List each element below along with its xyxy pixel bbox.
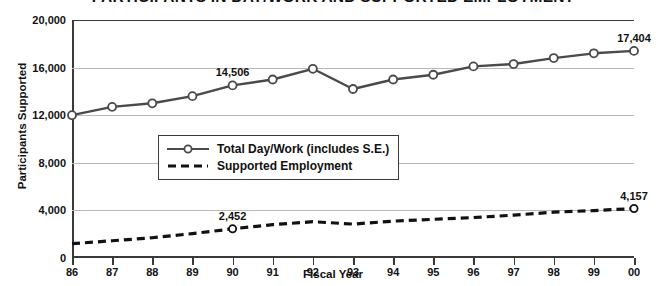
legend-label-total-day-work: Total Day/Work (includes S.E.) <box>217 142 389 156</box>
x-axis-tick-label-90: 90 <box>218 266 248 278</box>
legend-item-supported-employment: Supported Employment <box>166 157 389 174</box>
data-point-marker <box>349 85 357 93</box>
chart-container: PARTICIPANTS IN DAY/WORK AND SUPPORTED E… <box>0 0 666 286</box>
data-point-marker <box>269 76 277 84</box>
series-line-1 <box>72 209 634 244</box>
x-axis-tick-label-88: 88 <box>137 266 167 278</box>
data-point-marker <box>590 49 598 57</box>
data-label-14506: 14,506 <box>216 66 250 78</box>
data-point-marker <box>188 92 196 100</box>
x-axis-tick-label-94: 94 <box>378 266 408 278</box>
y-axis-tick-label: 12,000 <box>6 109 66 121</box>
y-axis-tick-label: 16,000 <box>6 62 66 74</box>
data-point-marker <box>550 54 558 62</box>
x-axis-tick-label-93: 93 <box>338 266 368 278</box>
data-point-marker <box>630 205 637 212</box>
x-axis-tick-label-96: 96 <box>458 266 488 278</box>
y-axis-tick-label: 20,000 <box>6 14 66 26</box>
data-label-4157: 4,157 <box>620 190 648 202</box>
data-point-marker <box>510 60 518 68</box>
plot-area: 04,0008,00012,00016,00020,000 8687888990… <box>72 20 634 258</box>
y-axis-tick-label: 8,000 <box>6 157 66 169</box>
data-point-marker <box>389 76 397 84</box>
legend-label-supported-employment: Supported Employment <box>217 159 352 173</box>
x-axis-tick-label-91: 91 <box>258 266 288 278</box>
x-axis-tick-mark <box>634 258 636 265</box>
legend-swatch-solid-line-icon <box>166 143 210 155</box>
x-axis-tick-label-95: 95 <box>418 266 448 278</box>
data-point-marker <box>630 47 638 55</box>
data-point-marker <box>469 62 477 70</box>
data-point-marker <box>309 65 317 73</box>
data-point-marker <box>229 225 236 232</box>
x-axis-tick-label-00: 00 <box>619 266 649 278</box>
y-axis-tick-label: 4,000 <box>6 204 66 216</box>
x-axis-tick-label-89: 89 <box>177 266 207 278</box>
legend-swatch-dashed-line-icon <box>166 160 210 172</box>
chart-legend: Total Day/Work (includes S.E.) Supported… <box>158 135 399 180</box>
data-point-marker <box>229 81 237 89</box>
data-point-marker <box>108 103 116 111</box>
x-axis-tick-label-99: 99 <box>579 266 609 278</box>
data-point-marker <box>429 71 437 79</box>
x-axis-tick-label-92: 92 <box>298 266 328 278</box>
y-axis-tick-label: 0 <box>6 252 66 264</box>
legend-item-total-day-work: Total Day/Work (includes S.E.) <box>166 140 389 157</box>
chart-title: PARTICIPANTS IN DAY/WORK AND SUPPORTED E… <box>0 0 666 6</box>
data-label-2452: 2,452 <box>219 210 247 222</box>
x-axis-tick-label-87: 87 <box>97 266 127 278</box>
data-label-17404: 17,404 <box>617 32 651 44</box>
data-point-marker <box>68 111 76 119</box>
data-point-marker <box>148 99 156 107</box>
x-axis-tick-label-86: 86 <box>57 266 87 278</box>
x-axis-tick-label-97: 97 <box>499 266 529 278</box>
x-axis-tick-label-98: 98 <box>539 266 569 278</box>
